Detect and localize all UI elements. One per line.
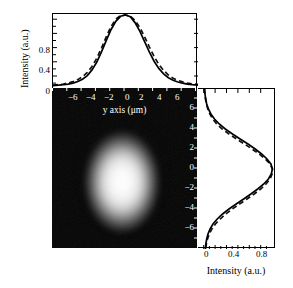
image-panel-x-axis-title: y axis (μm) — [52, 105, 197, 115]
right-plot-x-tick-1: 0.4 — [228, 250, 239, 259]
image-x-tick-4: 2 — [139, 93, 144, 102]
right-plot-x-tick-2: 0.8 — [256, 250, 267, 259]
image-x-tick-5: 4 — [157, 93, 162, 102]
image-x-tick-0: −6 — [68, 93, 78, 102]
top-plot-series-fit — [53, 15, 198, 85]
right-plot-canvas — [198, 89, 275, 249]
image-panel-x-tick-labels: −6 −4 −2 0 2 4 6 — [52, 90, 197, 102]
image-x-tick-3: 0 — [125, 93, 130, 102]
image-panel: −6 −4 −2 0 2 4 6 y axis (μm) — [52, 88, 197, 248]
image-x-tick-2: −2 — [104, 93, 114, 102]
right-plot-x-tick-0: 0 — [204, 250, 209, 259]
right-plot-series-fit — [204, 89, 272, 249]
top-plot-y-tick-labels: 0.8 0.4 0 — [18, 13, 50, 88]
image-panel-z-axis-title: z axis (μm) — [187, 88, 197, 248]
top-plot-y-ticks — [53, 19, 57, 83]
right-plot-x-axis-title: Intensity (a.u.) — [186, 265, 286, 276]
top-plot-canvas — [53, 14, 198, 89]
top-plot-y-tick-1: 0.4 — [39, 66, 50, 75]
top-profile-plot — [52, 13, 197, 88]
right-plot-x-tick-labels: 0 0.4 0.8 — [190, 250, 290, 262]
right-plot-top-ticks — [204, 89, 261, 93]
image-x-tick-6: 6 — [175, 93, 180, 102]
image-x-tick-1: −4 — [86, 93, 96, 102]
figure-root: Intensity (a.u.) 0.8 0.4 0 — [0, 0, 293, 288]
top-plot-y-tick-0: 0.8 — [39, 46, 50, 55]
top-plot-series-measured — [53, 15, 198, 86]
top-plot-right-ticks — [194, 19, 198, 76]
top-plot-y-tick-2: 0 — [46, 87, 51, 96]
right-profile-plot — [198, 88, 275, 248]
